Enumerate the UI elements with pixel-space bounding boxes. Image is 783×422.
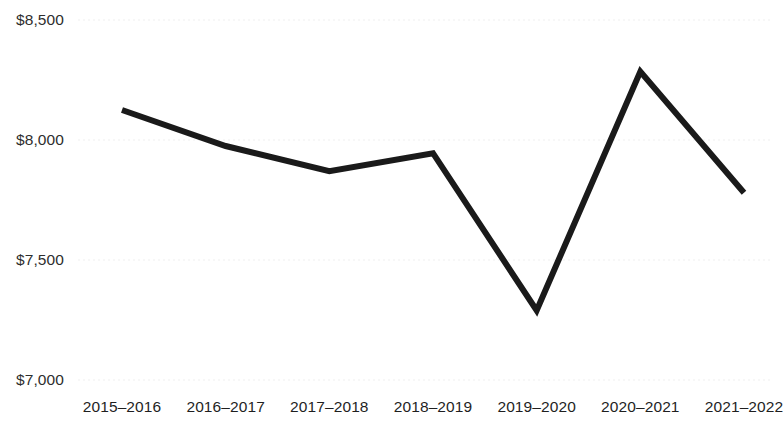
y-axis-tick-label: $7,000	[16, 371, 64, 389]
y-axis-tick-label: $7,500	[16, 251, 64, 269]
x-axis-tick-label: 2018–2019	[394, 398, 472, 416]
data-series	[122, 72, 744, 311]
gridlines	[78, 20, 773, 380]
x-axis-tick-label: 2015–2016	[83, 398, 161, 416]
x-axis: 2015–20162016–20172017–20182018–20192019…	[0, 396, 773, 422]
y-axis: $8,500$8,000$7,500$7,000	[0, 0, 70, 422]
series-line	[122, 72, 744, 311]
y-axis-tick-label: $8,500	[16, 11, 64, 29]
x-axis-tick-label: 2019–2020	[497, 398, 575, 416]
x-axis-tick-label: 2020–2021	[601, 398, 679, 416]
y-axis-tick-label: $8,000	[16, 131, 64, 149]
x-axis-tick-label: 2017–2018	[290, 398, 368, 416]
x-axis-tick-label: 2021–2022	[705, 398, 783, 416]
x-axis-tick-label: 2016–2017	[186, 398, 264, 416]
